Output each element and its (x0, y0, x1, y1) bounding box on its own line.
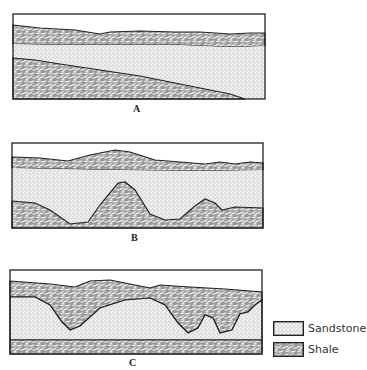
panel-c-label: C (129, 357, 136, 368)
geologic-cross-sections (0, 0, 367, 370)
panel-a-label: A (133, 103, 140, 114)
panel-b-label: B (131, 232, 138, 243)
legend-label-shale: Shale (308, 343, 339, 356)
sandstone-swatch-icon (273, 321, 304, 336)
legend-item-sandstone: Sandstone (273, 321, 366, 336)
panel-a-section (13, 14, 265, 99)
shale-swatch-icon (273, 342, 304, 357)
panel-b-section (12, 143, 263, 228)
panel-c-section (10, 270, 262, 354)
legend-label-sandstone: Sandstone (308, 322, 366, 335)
legend-item-shale: Shale (273, 342, 339, 357)
